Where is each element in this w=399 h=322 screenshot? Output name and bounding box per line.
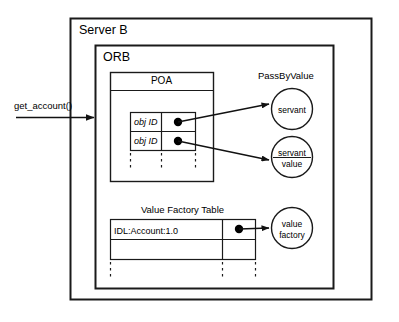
get-account-label: get_account() xyxy=(14,101,72,111)
diagram-canvas: Server B ORB POA PassByValue get_account… xyxy=(0,0,399,322)
passbyvalue-label: PassByValue xyxy=(258,71,314,81)
orb-label: ORB xyxy=(103,51,130,64)
servant-circle-line1: servant xyxy=(268,105,316,116)
objid-cell-1: obj ID xyxy=(134,118,158,127)
value-factory-table-label: Value Factory Table xyxy=(110,205,255,215)
objid-cell-2: obj ID xyxy=(134,137,158,146)
value-factory-circle-line1: value xyxy=(268,219,316,230)
value-factory-circle-label: value factory xyxy=(268,219,316,240)
servant-circle-label: servant xyxy=(268,105,316,116)
server-b-label: Server B xyxy=(79,24,128,37)
servant-value-circle-line1: servant xyxy=(268,148,316,159)
value-factory-repository-id-cell: IDL:Account:1.0 xyxy=(114,227,178,236)
value-factory-circle-line2: factory xyxy=(268,230,316,241)
diagram-graphics xyxy=(0,0,399,322)
poa-header-label: POA xyxy=(110,76,213,86)
servant-value-circle-line2: value xyxy=(268,159,316,170)
servant-value-circle-label: servant value xyxy=(268,148,316,169)
